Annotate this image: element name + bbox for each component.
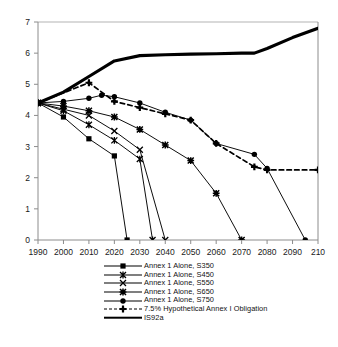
y-tick-label: 4 bbox=[25, 110, 30, 120]
x-tick-label: 210 bbox=[311, 247, 325, 257]
x-tick-label: 2070 bbox=[232, 247, 251, 257]
legend-key-icon bbox=[104, 314, 142, 322]
x-tick-label: 2010 bbox=[79, 247, 98, 257]
y-tick-label: 0 bbox=[25, 235, 30, 245]
legend-item: 7.5% Hypothetical Annex I Obligation bbox=[104, 305, 314, 314]
emissions-scenario-chart: 01234567 1990200020102020203020402050206… bbox=[0, 0, 338, 347]
x-tick-label: 2030 bbox=[130, 247, 149, 257]
series-line bbox=[35, 100, 156, 244]
x-tick-label: 2090 bbox=[283, 247, 302, 257]
x-tick-label: 1990 bbox=[29, 247, 48, 257]
y-tick-label: 3 bbox=[25, 142, 30, 152]
x-tick-label: 2020 bbox=[105, 247, 124, 257]
x-tick-label: 2050 bbox=[181, 247, 200, 257]
y-tick-label: 7 bbox=[25, 17, 30, 27]
y-tick-label: 6 bbox=[25, 48, 30, 58]
series-line bbox=[35, 100, 245, 244]
x-tick-label: 2000 bbox=[54, 247, 73, 257]
y-tick-label: 5 bbox=[25, 79, 30, 89]
x-tick-label: 2040 bbox=[156, 247, 175, 257]
y-axis: 01234567 bbox=[25, 17, 38, 245]
legend-key-icon bbox=[104, 305, 142, 313]
x-tick-label: 2080 bbox=[258, 247, 277, 257]
data-series-layer bbox=[35, 28, 322, 243]
x-axis: 1990200020102020203020402050206020702080… bbox=[29, 240, 326, 257]
x-tick-label: 2060 bbox=[207, 247, 226, 257]
series-line bbox=[38, 28, 318, 103]
series-line bbox=[35, 100, 168, 243]
y-tick-label: 1 bbox=[25, 204, 30, 214]
legend-item-label: IS92a bbox=[144, 314, 164, 322]
y-tick-label: 2 bbox=[25, 173, 30, 183]
chart-legend: Annex 1 Alone, S350Annex 1 Alone, S450An… bbox=[104, 262, 314, 322]
series-line bbox=[35, 79, 322, 173]
legend-item: IS92a bbox=[104, 314, 314, 323]
